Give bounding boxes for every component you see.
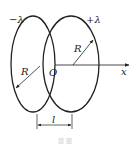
right-charge-label: +λ — [86, 14, 101, 25]
right-radius-label: R — [73, 43, 82, 54]
origin-label: O — [49, 67, 57, 78]
left-charge-label: −λ — [9, 14, 24, 25]
axis-label: x — [121, 66, 127, 77]
left-ring — [11, 16, 55, 112]
right-ring — [43, 16, 99, 112]
left-radius-label: R — [20, 66, 29, 77]
separation-label: l — [52, 114, 55, 125]
two-ring-diagram: −λ +λ R R O x l 题 图 — [0, 0, 138, 146]
figure-caption: 题 图 — [58, 137, 72, 145]
